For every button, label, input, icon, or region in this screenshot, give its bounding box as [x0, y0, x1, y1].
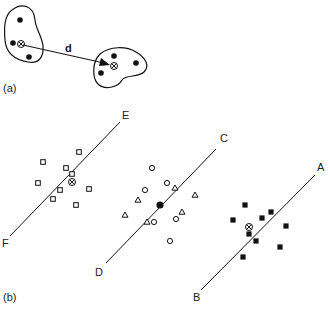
panel-b-points	[36, 150, 289, 260]
open-circle-marker	[149, 165, 154, 170]
data-point	[10, 40, 16, 46]
open-square-marker	[70, 172, 75, 177]
open-square-marker	[58, 188, 63, 193]
arrowhead-icon	[99, 58, 110, 66]
panel-a-label: (a)	[3, 82, 16, 94]
projection-line-EF	[10, 122, 120, 236]
open-square-marker	[87, 187, 92, 192]
open-circle-marker	[142, 187, 147, 192]
line-label-C: C	[220, 132, 228, 144]
open-square-marker	[74, 203, 79, 208]
data-point	[26, 54, 32, 60]
filled-square-marker	[242, 202, 247, 207]
open-triangle-marker	[122, 212, 128, 217]
centroid-circled-x-icon	[69, 179, 76, 186]
open-square-marker	[64, 166, 69, 171]
filled-square-marker	[283, 223, 288, 228]
centroid-filled-circle-icon	[156, 201, 163, 208]
filled-square-marker	[246, 231, 251, 236]
centroid-circled-x-icon	[18, 41, 25, 48]
data-point	[98, 70, 104, 76]
open-triangle-marker	[144, 219, 150, 224]
filled-square-marker	[259, 215, 264, 220]
open-circle-marker	[164, 180, 169, 185]
filled-square-marker	[230, 217, 235, 222]
open-square-marker	[77, 150, 82, 155]
diagram-canvas: d (a) E F C D A B (b)	[0, 0, 330, 309]
line-label-F: F	[2, 237, 9, 249]
line-label-A: A	[317, 161, 325, 173]
open-square-marker	[51, 197, 56, 202]
filled-square-marker	[268, 209, 273, 214]
cluster-right-boundary	[94, 48, 147, 88]
data-point	[17, 17, 23, 23]
filled-square-marker	[253, 238, 258, 243]
open-triangle-marker	[192, 192, 198, 197]
data-point	[111, 53, 117, 59]
projection-line-BA	[201, 175, 315, 290]
open-triangle-marker	[172, 185, 178, 190]
open-square-marker	[41, 160, 46, 165]
centroid-circled-x-icon	[246, 224, 253, 231]
filled-square-marker	[240, 254, 245, 259]
line-label-D: D	[95, 266, 103, 278]
open-circle-marker	[167, 238, 172, 243]
centroid-circled-x-icon	[111, 63, 118, 70]
data-point	[133, 60, 139, 66]
cluster-left-boundary	[5, 6, 44, 62]
filled-square-marker	[277, 244, 282, 249]
open-triangle-marker	[179, 209, 185, 214]
open-triangle-marker	[135, 197, 141, 202]
open-circle-marker	[151, 219, 156, 224]
open-square-marker	[36, 181, 41, 186]
distance-arrow	[23, 45, 104, 63]
line-label-B: B	[193, 291, 200, 303]
distance-label: d	[65, 42, 72, 54]
line-label-E: E	[122, 109, 129, 121]
open-circle-marker	[173, 216, 178, 221]
panel-b-label: (b)	[3, 291, 16, 303]
